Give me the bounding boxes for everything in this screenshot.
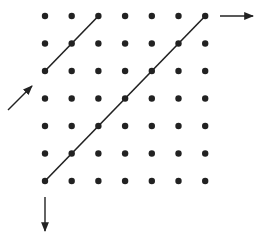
grid-dot bbox=[202, 150, 208, 156]
dot-grid-diagram bbox=[0, 0, 259, 235]
grid-dot bbox=[202, 40, 208, 46]
grid-dot bbox=[175, 150, 181, 156]
grid-dot bbox=[69, 123, 75, 129]
grid-dot bbox=[202, 68, 208, 74]
grid-dot bbox=[69, 150, 75, 156]
grid-dot bbox=[175, 40, 181, 46]
grid-dot bbox=[175, 178, 181, 184]
grid-dot bbox=[42, 150, 48, 156]
grid-dot bbox=[95, 150, 101, 156]
grid-dot bbox=[202, 178, 208, 184]
grid-dot bbox=[149, 13, 155, 19]
grid-dot bbox=[42, 178, 48, 184]
grid-dot bbox=[149, 68, 155, 74]
grid-dot bbox=[122, 95, 128, 101]
grid-dot bbox=[122, 150, 128, 156]
grid-dot bbox=[122, 178, 128, 184]
grid-dot bbox=[175, 123, 181, 129]
grid-dot bbox=[42, 123, 48, 129]
grid-dot bbox=[95, 123, 101, 129]
grid-dot bbox=[149, 150, 155, 156]
grid-dot bbox=[122, 40, 128, 46]
grid-dot bbox=[122, 68, 128, 74]
entry-arrow-up-right-icon bbox=[8, 86, 32, 110]
grid-dot bbox=[149, 123, 155, 129]
grid-dot bbox=[122, 13, 128, 19]
grid-dot bbox=[69, 13, 75, 19]
grid-dot bbox=[95, 40, 101, 46]
grid-dot bbox=[149, 40, 155, 46]
grid-dot bbox=[175, 95, 181, 101]
grid-dot bbox=[69, 95, 75, 101]
grid-dot bbox=[95, 95, 101, 101]
grid-dot bbox=[202, 13, 208, 19]
grid-dot bbox=[122, 123, 128, 129]
grid-dot bbox=[69, 68, 75, 74]
grid-dot bbox=[42, 95, 48, 101]
grid-dot bbox=[95, 13, 101, 19]
grid-dot bbox=[175, 68, 181, 74]
grid-dot bbox=[95, 68, 101, 74]
grid-dot bbox=[149, 95, 155, 101]
grid-dot bbox=[69, 40, 75, 46]
grid-dot bbox=[202, 123, 208, 129]
grid-dot bbox=[202, 95, 208, 101]
grid-dot bbox=[149, 178, 155, 184]
grid-dot bbox=[69, 178, 75, 184]
grid-dot bbox=[42, 13, 48, 19]
grid-dot bbox=[95, 178, 101, 184]
grid-dot bbox=[42, 68, 48, 74]
grid-dot bbox=[175, 13, 181, 19]
grid-dot bbox=[42, 40, 48, 46]
